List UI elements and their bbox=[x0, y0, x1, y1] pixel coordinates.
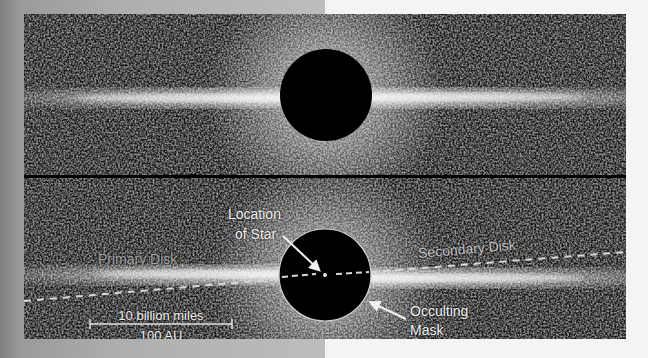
location-label-line2: of Star bbox=[235, 227, 276, 242]
disk-image-figure: Location of Star Primary Disk Secondary … bbox=[24, 14, 626, 339]
occulting-label-line1: Occulting bbox=[410, 304, 468, 319]
star-location-dot bbox=[323, 273, 327, 277]
occulting-mask-top bbox=[280, 49, 372, 141]
occulting-label-line2: Mask bbox=[410, 323, 443, 338]
scale-label-au: 100 AU bbox=[90, 328, 232, 339]
top-panel bbox=[24, 14, 626, 175]
top-panel-image bbox=[24, 14, 626, 175]
location-label-line1: Location bbox=[228, 207, 281, 222]
bottom-panel: Location of Star Primary Disk Secondary … bbox=[24, 178, 626, 339]
primary-disk-label: Primary Disk bbox=[98, 252, 177, 267]
scale-label-miles: 10 billion miles bbox=[90, 308, 232, 323]
